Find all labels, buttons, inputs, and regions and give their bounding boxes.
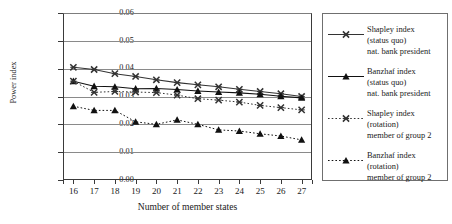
marker-x-icon [70, 64, 76, 70]
x-tick-mark [63, 180, 64, 184]
legend-label: Banzhaf index(status quo)nat. bank presi… [367, 66, 451, 99]
legend-sample-swatch [327, 152, 365, 163]
data-series-layer [63, 13, 312, 180]
legend-label-line: Banzhaf index [367, 150, 451, 161]
marker-x-icon [216, 97, 222, 103]
x-tick-mark [94, 180, 95, 184]
x-tick-label: 18 [104, 186, 126, 196]
x-tick-mark [302, 180, 303, 184]
marker-triangle-icon [111, 107, 118, 114]
marker-triangle-icon [70, 103, 77, 110]
marker-x-icon [133, 73, 139, 79]
x-tick-label: 19 [125, 186, 147, 196]
marker-x-icon [343, 31, 349, 37]
marker-triangle-icon [277, 132, 284, 139]
x-tick-mark [156, 180, 157, 184]
marker-x-icon [91, 89, 97, 95]
marker-triangle-icon [298, 136, 305, 143]
legend-label: Shapley index(status quo)nat. bank presi… [367, 24, 451, 57]
legend-label: Shapley index(rotation)member of group 2 [367, 108, 451, 141]
x-tick-mark [260, 180, 261, 184]
legend-label-line: member of group 2 [367, 130, 451, 141]
marker-x-icon [112, 71, 118, 77]
x-tick-mark [198, 180, 199, 184]
legend-label-line: (rotation) [367, 119, 451, 130]
marker-triangle-icon [174, 116, 181, 123]
legend-label-line: Shapley index [367, 108, 451, 119]
y-axis-title: Power index [9, 42, 18, 124]
marker-x-icon [236, 99, 242, 105]
legend-label-line: Shapley index [367, 24, 451, 35]
x-tick-mark [177, 180, 178, 184]
legend-label-line: (status quo) [367, 77, 451, 88]
legend-label-line: nat. bank president [367, 88, 451, 99]
x-tick-label: 23 [208, 186, 230, 196]
legend-label-line: Banzhaf index [367, 66, 451, 77]
marker-x-icon [91, 66, 97, 72]
x-tick-label: 26 [270, 186, 292, 196]
x-tick-mark [136, 180, 137, 184]
marker-x-icon [195, 96, 201, 102]
marker-x-icon [343, 115, 349, 121]
legend-label-line: (rotation) [367, 161, 451, 172]
marker-x-icon [278, 105, 284, 111]
x-axis-title: Number of member states [63, 201, 312, 212]
marker-x-icon [299, 107, 305, 113]
legend-sample-swatch [327, 68, 365, 79]
x-tick-mark [312, 180, 313, 184]
marker-triangle-icon [236, 127, 243, 134]
x-tick-mark [281, 180, 282, 184]
marker-x-icon [195, 82, 201, 88]
chart-legend: Shapley index(status quo)nat. bank presi… [322, 13, 448, 181]
series-line [73, 106, 301, 140]
legend-label: Banzhaf index(rotation)member of group 2 [367, 150, 451, 183]
x-tick-mark [239, 180, 240, 184]
legend-label-line: member of group 2 [367, 172, 451, 183]
series-4 [70, 103, 305, 143]
legend-label-line: nat. bank president [367, 46, 451, 57]
legend-sample-swatch [327, 110, 365, 121]
x-tick-label: 27 [291, 186, 313, 196]
x-tick-label: 24 [228, 186, 250, 196]
x-tick-label: 25 [249, 186, 271, 196]
x-tick-mark [73, 180, 74, 184]
x-tick-mark [115, 180, 116, 184]
x-tick-label: 20 [145, 186, 167, 196]
x-tick-label: 22 [187, 186, 209, 196]
legend-label-line: (status quo) [367, 35, 451, 46]
x-tick-label: 21 [166, 186, 188, 196]
x-tick-label: 16 [62, 186, 84, 196]
x-tick-mark [219, 180, 220, 184]
chart-figure: Power index 0.000.010.020.030.040.050.06… [0, 0, 452, 224]
marker-x-icon [153, 77, 159, 83]
marker-triangle-icon [132, 118, 139, 125]
legend-sample-swatch [327, 26, 365, 37]
marker-x-icon [174, 92, 180, 98]
series-2 [70, 78, 305, 101]
marker-x-icon [257, 102, 263, 108]
x-tick-label: 17 [83, 186, 105, 196]
series-line [73, 81, 301, 110]
series-1 [70, 64, 304, 99]
marker-x-icon [174, 79, 180, 85]
